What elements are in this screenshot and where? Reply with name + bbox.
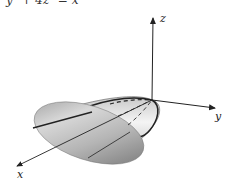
z-axis [152, 18, 153, 100]
y-axis [152, 100, 215, 108]
x-axis-label: x [17, 168, 23, 181]
paraboloid-plot [0, 0, 231, 189]
y-axis-label: y [215, 110, 221, 123]
paraboloid-diagram: y² + 4z² = x [0, 0, 231, 189]
z-axis-label: z [160, 12, 166, 25]
